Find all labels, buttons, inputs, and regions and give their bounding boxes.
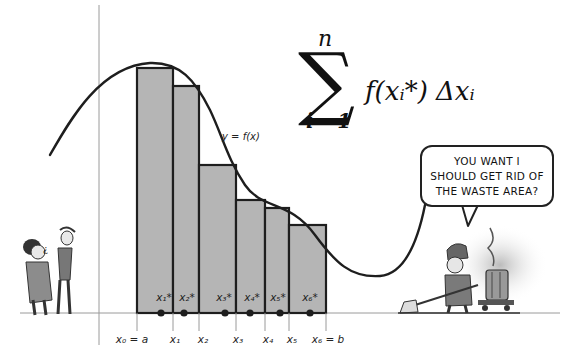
summand: f(xᵢ*) Δxᵢ bbox=[363, 76, 475, 106]
sample-point-label: x₁* bbox=[155, 291, 172, 303]
sample-point bbox=[246, 309, 253, 316]
partition-label: x₂ bbox=[197, 333, 209, 345]
sample-point bbox=[157, 309, 164, 316]
sample-point-label: x₅* bbox=[269, 291, 286, 303]
speech-line-1: YOU WANT I bbox=[430, 154, 544, 169]
cartoon-onlookers: ¿ bbox=[23, 227, 75, 315]
partition-label: x₅ bbox=[286, 333, 297, 345]
partition-ticks bbox=[137, 313, 326, 331]
speech-line-3: THE WASTE AREA? bbox=[430, 184, 544, 199]
sample-point bbox=[221, 309, 228, 316]
sample-point-label: x₆* bbox=[301, 291, 318, 303]
sample-point bbox=[306, 309, 313, 316]
sample-point bbox=[276, 309, 283, 316]
speech-line-2: SHOULD GET RID OF bbox=[430, 169, 544, 184]
curve-label: y = f(x) bbox=[221, 131, 260, 142]
cartoon-sweeper bbox=[398, 225, 548, 313]
speech-bubble: YOU WANT I SHOULD GET RID OF THE WASTE A… bbox=[420, 145, 554, 207]
lower-limit: i =1 bbox=[306, 109, 351, 133]
riemann-rectangle-1 bbox=[137, 68, 173, 313]
bubble-tail bbox=[462, 205, 478, 226]
partition-label: x₆ = b bbox=[311, 333, 345, 345]
sample-point-label: x₂* bbox=[178, 291, 195, 303]
riemann-rectangle-2 bbox=[173, 86, 199, 313]
sample-point-label: x₄* bbox=[243, 291, 260, 303]
riemann-sum-illustration: y = f(x) n ∑ i =1 f(xᵢ*) Δxᵢ x₀ = ax₁x₂x… bbox=[0, 0, 572, 359]
partition-labels: x₀ = ax₁x₂x₃x₄x₅x₆ = b bbox=[115, 333, 345, 345]
sample-point bbox=[180, 309, 187, 316]
svg-text:¿: ¿ bbox=[43, 244, 48, 254]
partition-label: x₁ bbox=[169, 333, 180, 345]
partition-label: x₄ bbox=[262, 333, 274, 345]
sample-point-label: x₃* bbox=[215, 291, 232, 303]
sigma-formula: n ∑ i =1 f(xᵢ*) Δxᵢ bbox=[298, 26, 475, 133]
partition-label: x₀ = a bbox=[115, 333, 148, 345]
partition-label: x₃ bbox=[232, 333, 243, 345]
